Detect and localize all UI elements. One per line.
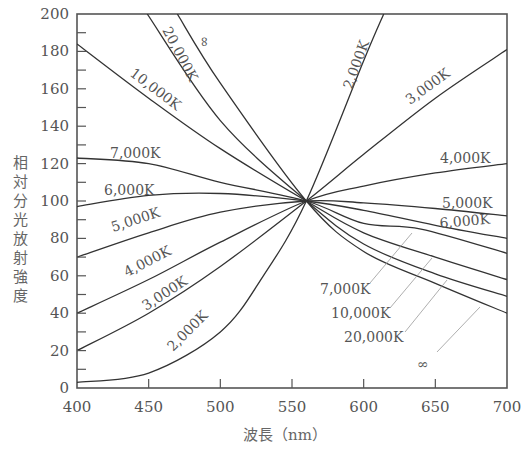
x-tick-label: 550 bbox=[278, 398, 307, 416]
leader-inf bbox=[437, 307, 480, 352]
spectral-distribution-chart: 0204060801001201401601802004004505005506… bbox=[0, 0, 525, 452]
y-axis-title-char: 射 bbox=[13, 249, 28, 267]
y-axis-title-char: 度 bbox=[13, 287, 28, 305]
label-10000k-callout: 10,000K bbox=[331, 305, 391, 321]
label-5000k-right: 5,000K bbox=[442, 195, 493, 211]
y-tick-label: 140 bbox=[40, 117, 69, 135]
y-tick-label: 20 bbox=[50, 342, 69, 360]
x-tick-label: 650 bbox=[421, 398, 450, 416]
x-tick-label: 500 bbox=[206, 398, 235, 416]
y-axis-title-char: 放 bbox=[13, 230, 28, 248]
label-4000k-left: 4,000K bbox=[121, 242, 174, 279]
label-inf-callout: ∞ bbox=[417, 356, 429, 372]
x-tick-label: 600 bbox=[349, 398, 378, 416]
y-tick-label: 180 bbox=[40, 42, 69, 60]
x-tick-label: 450 bbox=[134, 398, 163, 416]
y-tick-label: 120 bbox=[40, 155, 69, 173]
label-5000k-left: 5,000K bbox=[109, 204, 163, 235]
y-tick-label: 40 bbox=[50, 304, 69, 322]
label-3000k-left: 3,000K bbox=[139, 272, 191, 313]
label-3000k-top: 3,000K bbox=[402, 64, 453, 107]
label-7000k-left: 7,000K bbox=[110, 145, 161, 161]
label-6000k-right: 6,000K bbox=[439, 211, 491, 231]
label-20000k-top: 20,000K bbox=[159, 24, 201, 84]
label-2000k-top: 2,000K bbox=[340, 38, 373, 91]
label-20000k-callout: 20,000K bbox=[344, 329, 404, 345]
curve-labels: 20,000K ∞ 10,000K 7,000K 6,000K 5,000K 4… bbox=[104, 24, 493, 372]
y-axis-title-char: 対 bbox=[13, 173, 28, 191]
y-tick-label: 100 bbox=[40, 192, 69, 210]
x-tick-label: 400 bbox=[63, 398, 92, 416]
label-6000k-left: 6,000K bbox=[104, 182, 155, 198]
y-tick-label: 0 bbox=[59, 379, 69, 397]
y-tick-label: 200 bbox=[40, 5, 69, 23]
y-axis-title-char: 分 bbox=[13, 192, 28, 210]
y-axis-title: 相対分光放射強度 bbox=[13, 154, 28, 305]
x-tick-label: 700 bbox=[493, 398, 522, 416]
label-2000k-left: 2,000K bbox=[164, 307, 211, 354]
y-tick-label: 80 bbox=[50, 229, 69, 247]
label-7000k-callout: 7,000K bbox=[320, 281, 371, 297]
y-axis-title-char: 光 bbox=[13, 211, 28, 229]
label-inf-top: ∞ bbox=[197, 36, 213, 48]
y-tick-label: 160 bbox=[40, 80, 69, 98]
y-axis-title-char: 強 bbox=[13, 268, 28, 286]
y-axis-title-char: 相 bbox=[13, 154, 28, 172]
x-axis-title: 波長（nm） bbox=[243, 426, 327, 444]
leader-20000k bbox=[405, 280, 447, 332]
label-4000k-right: 4,000K bbox=[440, 150, 491, 166]
y-tick-label: 60 bbox=[50, 267, 69, 285]
